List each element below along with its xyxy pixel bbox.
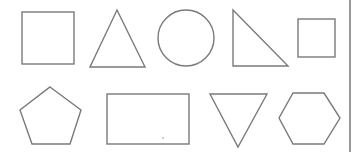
circle-shape bbox=[158, 10, 214, 66]
inverted-triangle-shape bbox=[210, 94, 267, 147]
shape-row-2 bbox=[20, 87, 340, 147]
artifacts bbox=[162, 137, 164, 139]
triangle-shape bbox=[90, 10, 145, 67]
shape-row-1 bbox=[22, 10, 335, 67]
rectangle-shape bbox=[107, 94, 189, 144]
square-shape bbox=[22, 12, 74, 64]
pentagon-shape bbox=[20, 87, 81, 144]
small-square-shape bbox=[298, 19, 335, 57]
shapes-diagram bbox=[0, 0, 358, 152]
right-triangle-shape bbox=[233, 10, 288, 66]
stray-dot bbox=[162, 137, 164, 139]
hexagon-shape bbox=[279, 93, 340, 144]
